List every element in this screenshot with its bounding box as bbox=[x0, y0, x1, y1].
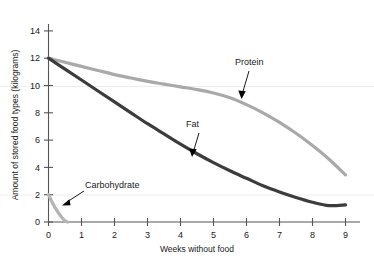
y-tick-label-10: 10 bbox=[30, 81, 40, 91]
x-tick-label-2: 2 bbox=[112, 230, 117, 240]
carbohydrate-label: Carbohydrate bbox=[85, 180, 140, 190]
x-tick-label-1: 1 bbox=[79, 230, 84, 240]
x-tick-label-6: 6 bbox=[244, 230, 249, 240]
x-tick-label-0: 0 bbox=[46, 230, 51, 240]
x-tick-label-7: 7 bbox=[277, 230, 282, 240]
y-tick-label-0: 0 bbox=[35, 217, 40, 227]
line-chart: 0 2 4 6 8 10 12 14 0 1 2 3 4 5 6 7 8 9 W… bbox=[0, 0, 374, 260]
chart-background bbox=[0, 0, 374, 260]
x-tick-label-8: 8 bbox=[310, 230, 315, 240]
x-axis-title: Weeks without food bbox=[160, 244, 234, 254]
y-tick-label-4: 4 bbox=[35, 163, 40, 173]
protein-label: Protein bbox=[235, 57, 264, 67]
x-tick-label-4: 4 bbox=[178, 230, 183, 240]
y-tick-label-12: 12 bbox=[30, 53, 40, 63]
y-tick-label-2: 2 bbox=[35, 190, 40, 200]
x-tick-label-3: 3 bbox=[145, 230, 150, 240]
x-tick-label-9: 9 bbox=[343, 230, 348, 240]
y-tick-label-8: 8 bbox=[35, 108, 40, 118]
x-tick-label-5: 5 bbox=[211, 230, 216, 240]
y-tick-label-6: 6 bbox=[35, 135, 40, 145]
y-tick-label-14: 14 bbox=[30, 26, 40, 36]
fat-label: Fat bbox=[186, 119, 200, 129]
chart-figure: 0 2 4 6 8 10 12 14 0 1 2 3 4 5 6 7 8 9 W… bbox=[0, 0, 374, 260]
y-axis-title: Amount of stored food types (kilograms) bbox=[10, 49, 20, 200]
